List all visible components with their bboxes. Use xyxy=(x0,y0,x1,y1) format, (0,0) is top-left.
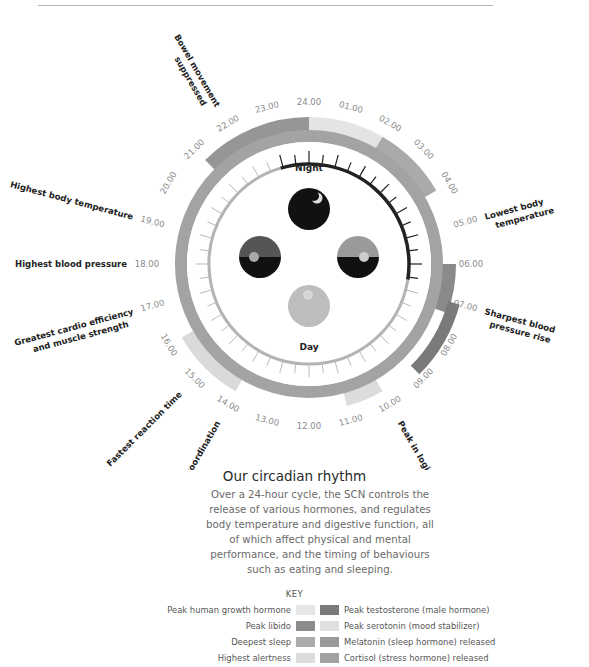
hour-label: 24.00 xyxy=(297,97,321,107)
key-title: KEY xyxy=(0,589,589,599)
key-swatch xyxy=(320,637,339,647)
day-label: Day xyxy=(299,342,318,352)
hour-label: 21.00 xyxy=(182,137,206,161)
key-swatch xyxy=(320,605,339,615)
hour-label: 04.00 xyxy=(439,170,460,196)
event-logic: Peak in logical reasoning xyxy=(396,419,465,470)
event-bowel: Bowel movementsuppressed xyxy=(163,32,222,114)
key-swatch xyxy=(320,653,339,663)
key-swatch xyxy=(296,653,315,663)
key-swatch xyxy=(296,605,315,615)
key-item: Cortisol (stress hormone) released xyxy=(320,652,488,664)
key-item: Highest alertness xyxy=(218,652,315,664)
hour-label: 14.00 xyxy=(215,393,241,414)
circadian-dial: Night Day 24.0001.0002.0003.0004.0005.00… xyxy=(0,0,589,470)
key-item: Peak human growth hormone xyxy=(167,604,315,616)
chart-title: Our circadian rhythm xyxy=(0,468,589,484)
event-lowest-temp: Lowest bodytemperature xyxy=(484,194,556,232)
sunset-icon xyxy=(239,236,281,278)
hour-label: 06.00 xyxy=(459,259,483,269)
sunrise-icon xyxy=(337,236,379,278)
moon-icon xyxy=(288,188,330,230)
hour-label: 23.00 xyxy=(254,99,280,115)
key-item: Melatonin (sleep hormone) released xyxy=(320,636,495,648)
key-item: Peak serotonin (mood stabilizer) xyxy=(320,620,479,632)
hour-label: 03.00 xyxy=(412,137,436,161)
event-bp-rise: Sharpest bloodpressure rise xyxy=(481,306,557,345)
sun-icon xyxy=(288,285,330,327)
hour-label: 13.00 xyxy=(254,412,280,428)
chart-description: Over a 24-hour cycle, the SCN controls t… xyxy=(200,487,440,577)
hour-label: 20.00 xyxy=(158,170,179,196)
key-item: Peak testosterone (male hormone) xyxy=(320,604,490,616)
event-reaction: Fastest reaction time xyxy=(105,389,184,468)
hour-label: 16.00 xyxy=(159,332,180,358)
hour-label: 18.00 xyxy=(135,259,159,269)
hour-label: 19.00 xyxy=(140,214,166,230)
hour-label: 02.00 xyxy=(377,113,403,134)
key-item: Deepest sleep xyxy=(231,636,315,648)
key-swatch xyxy=(296,621,315,631)
hour-label: 15.00 xyxy=(183,366,207,390)
hour-label: 10.00 xyxy=(377,393,403,414)
night-label: Night xyxy=(295,163,323,173)
key-item: Peak libido xyxy=(246,620,315,632)
event-high-temp: Highest body temperature xyxy=(9,179,135,222)
key-swatch xyxy=(296,637,315,647)
hour-label: 22.00 xyxy=(215,113,241,134)
hour-label: 12.00 xyxy=(297,421,321,431)
key-swatch xyxy=(320,621,339,631)
hour-label: 17.00 xyxy=(139,297,165,313)
event-high-bp: Highest blood pressure xyxy=(15,259,127,269)
hour-label: 01.00 xyxy=(338,99,364,115)
event-coordination: Best coordination xyxy=(171,419,222,470)
hour-label: 11.00 xyxy=(338,412,364,428)
hour-label: 05.00 xyxy=(452,214,478,230)
event-cardio: Greatest cardio efficiencyand muscle str… xyxy=(13,306,138,358)
